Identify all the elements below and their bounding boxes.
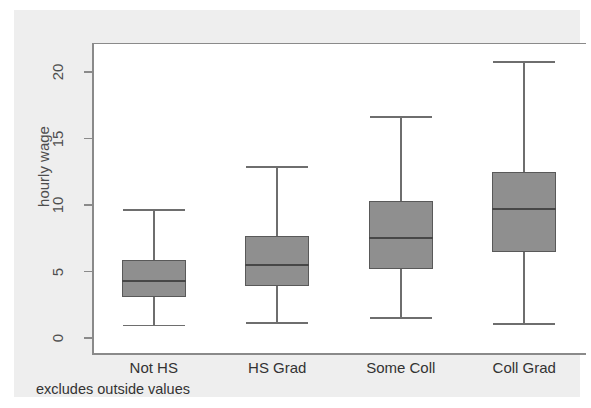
box-iqr-rect: [245, 236, 309, 287]
y-tick-label: 0: [36, 328, 80, 348]
upper-whisker-cap: [246, 166, 308, 168]
upper-whisker-cap: [370, 116, 432, 118]
box-iqr-rect: [122, 260, 186, 297]
y-tick-mark: [84, 71, 92, 73]
y-tick-label-text: 0: [48, 316, 68, 360]
upper-whisker-line: [276, 166, 278, 235]
y-tick-label-text: 10: [48, 183, 68, 227]
y-tick-mark: [84, 271, 92, 273]
x-axis-line: [92, 353, 586, 355]
lower-whisker-cap: [246, 322, 308, 324]
lower-whisker-cap: [493, 323, 555, 325]
y-tick-mark: [84, 337, 92, 339]
x-tick-label: Not HS: [94, 359, 214, 376]
upper-whisker-line: [400, 116, 402, 201]
upper-whisker-cap: [123, 209, 185, 211]
x-tick-label: Some Coll: [341, 359, 461, 376]
x-tick-label: Coll Grad: [464, 359, 584, 376]
median-line: [122, 280, 186, 282]
y-axis-line: [92, 43, 94, 354]
y-tick-label-text: 5: [48, 250, 68, 294]
lower-whisker-line: [153, 297, 155, 325]
y-tick-label: 15: [36, 129, 80, 149]
box-plot-figure: hourly wage 05101520 Not HSHS GradSome C…: [0, 0, 591, 408]
lower-whisker-cap: [123, 325, 185, 327]
y-tick-mark: [84, 138, 92, 140]
chart-note: excludes outside values: [36, 381, 190, 397]
lower-whisker-line: [276, 286, 278, 322]
upper-whisker-line: [153, 209, 155, 260]
lower-whisker-cap: [370, 317, 432, 319]
x-tick-label: HS Grad: [217, 359, 337, 376]
upper-whisker-line: [523, 61, 525, 171]
lower-whisker-line: [523, 252, 525, 324]
median-line: [245, 264, 309, 266]
y-tick-label-text: 20: [48, 50, 68, 94]
box-iqr-rect: [369, 201, 433, 269]
box-iqr-rect: [492, 172, 556, 252]
y-tick-label-text: 15: [48, 117, 68, 161]
y-tick-label: 10: [36, 195, 80, 215]
lower-whisker-line: [400, 269, 402, 317]
graph-region: hourly wage 05101520 Not HSHS GradSome C…: [14, 10, 580, 397]
y-tick-label: 20: [36, 62, 80, 82]
median-line: [492, 208, 556, 210]
y-tick-label: 5: [36, 262, 80, 282]
median-line: [369, 237, 433, 239]
upper-whisker-cap: [493, 61, 555, 63]
y-tick-mark: [84, 204, 92, 206]
